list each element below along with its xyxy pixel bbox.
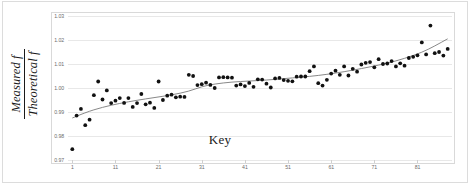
- data-point: [381, 62, 385, 66]
- data-point: [122, 101, 126, 105]
- data-point: [308, 69, 312, 73]
- data-point: [286, 79, 290, 83]
- data-point: [187, 73, 191, 77]
- y-tick-label: 0.98: [40, 133, 64, 139]
- data-point: [316, 81, 320, 85]
- x-tick-mark: [288, 160, 289, 163]
- data-point: [200, 82, 204, 86]
- x-tick-mark: [331, 160, 332, 163]
- data-point: [239, 83, 243, 87]
- y-tick-label: 1.02: [40, 37, 64, 43]
- data-point: [105, 89, 109, 93]
- y-axis-fraction: Measured f Theoretical f: [9, 49, 40, 118]
- x-tick-label: 41: [235, 164, 255, 170]
- data-point: [196, 83, 200, 87]
- x-tick-label: 1: [62, 164, 82, 170]
- data-point: [321, 84, 325, 88]
- x-tick-mark: [245, 160, 246, 163]
- data-point: [269, 86, 273, 90]
- y-tick-label: 1.03: [40, 13, 64, 19]
- data-point: [342, 65, 346, 69]
- data-point: [364, 61, 368, 65]
- data-point: [174, 95, 178, 99]
- y-tick-label: 0.97: [40, 157, 64, 163]
- data-point: [312, 65, 316, 69]
- data-point: [303, 75, 307, 79]
- x-tick-label: 51: [278, 164, 298, 170]
- data-point: [170, 93, 174, 97]
- data-point: [325, 78, 329, 82]
- data-point: [368, 60, 372, 64]
- data-point: [92, 93, 96, 97]
- data-point: [118, 96, 122, 100]
- data-point: [135, 101, 139, 105]
- data-point: [398, 61, 402, 65]
- y-tick-label: 0.99: [40, 109, 64, 115]
- x-tick-label: 81: [407, 164, 427, 170]
- data-point: [226, 76, 230, 80]
- x-axis-title: Key: [180, 132, 260, 148]
- data-point: [161, 98, 165, 102]
- data-point: [394, 65, 398, 69]
- x-tick-label: 21: [149, 164, 169, 170]
- data-point: [265, 82, 269, 86]
- x-tick-mark: [159, 160, 160, 163]
- data-point: [437, 50, 441, 54]
- scatter-points: [68, 16, 452, 160]
- data-point: [247, 81, 251, 85]
- data-point: [338, 73, 342, 77]
- data-point: [204, 81, 208, 85]
- x-tick-mark: [72, 160, 73, 163]
- data-point: [420, 41, 424, 45]
- data-point: [273, 77, 277, 81]
- data-point: [407, 56, 411, 60]
- data-point: [424, 53, 428, 57]
- data-point: [79, 107, 83, 111]
- data-point: [334, 69, 338, 73]
- data-point: [144, 102, 148, 106]
- data-point: [178, 95, 182, 99]
- data-point: [109, 101, 113, 105]
- data-point: [191, 74, 195, 78]
- data-point: [282, 78, 286, 82]
- data-point: [139, 92, 143, 96]
- data-point: [359, 63, 363, 67]
- data-point: [355, 70, 359, 74]
- x-tick-mark: [374, 160, 375, 163]
- data-point: [295, 75, 299, 79]
- data-point: [148, 101, 152, 105]
- y-axis-numerator: Measured f: [9, 53, 24, 114]
- x-tick-label: 71: [364, 164, 384, 170]
- data-point: [260, 78, 264, 82]
- data-point: [157, 80, 161, 84]
- data-point: [152, 106, 156, 110]
- data-point: [411, 55, 415, 59]
- x-tick-label: 61: [321, 164, 341, 170]
- data-point: [230, 76, 234, 80]
- data-point: [183, 95, 187, 99]
- data-point: [390, 59, 394, 63]
- data-point: [234, 84, 238, 88]
- data-point: [75, 114, 79, 118]
- data-point: [243, 84, 247, 88]
- data-point: [433, 51, 437, 55]
- x-tick-mark: [202, 160, 203, 163]
- data-point: [127, 96, 131, 100]
- data-point: [347, 74, 351, 78]
- data-point: [83, 123, 87, 127]
- data-point: [299, 75, 303, 79]
- data-point: [252, 85, 256, 89]
- data-point: [377, 57, 381, 61]
- data-point: [351, 67, 355, 71]
- data-point: [165, 94, 169, 98]
- y-tick-label: 1.00: [40, 85, 64, 91]
- x-tick-mark: [115, 160, 116, 163]
- x-tick-label: 11: [105, 164, 125, 170]
- x-tick-mark: [417, 160, 418, 163]
- data-point: [208, 83, 212, 87]
- data-point: [385, 62, 389, 66]
- data-point: [221, 75, 225, 79]
- gridline: [68, 160, 452, 161]
- data-point: [290, 79, 294, 83]
- data-point: [416, 53, 420, 57]
